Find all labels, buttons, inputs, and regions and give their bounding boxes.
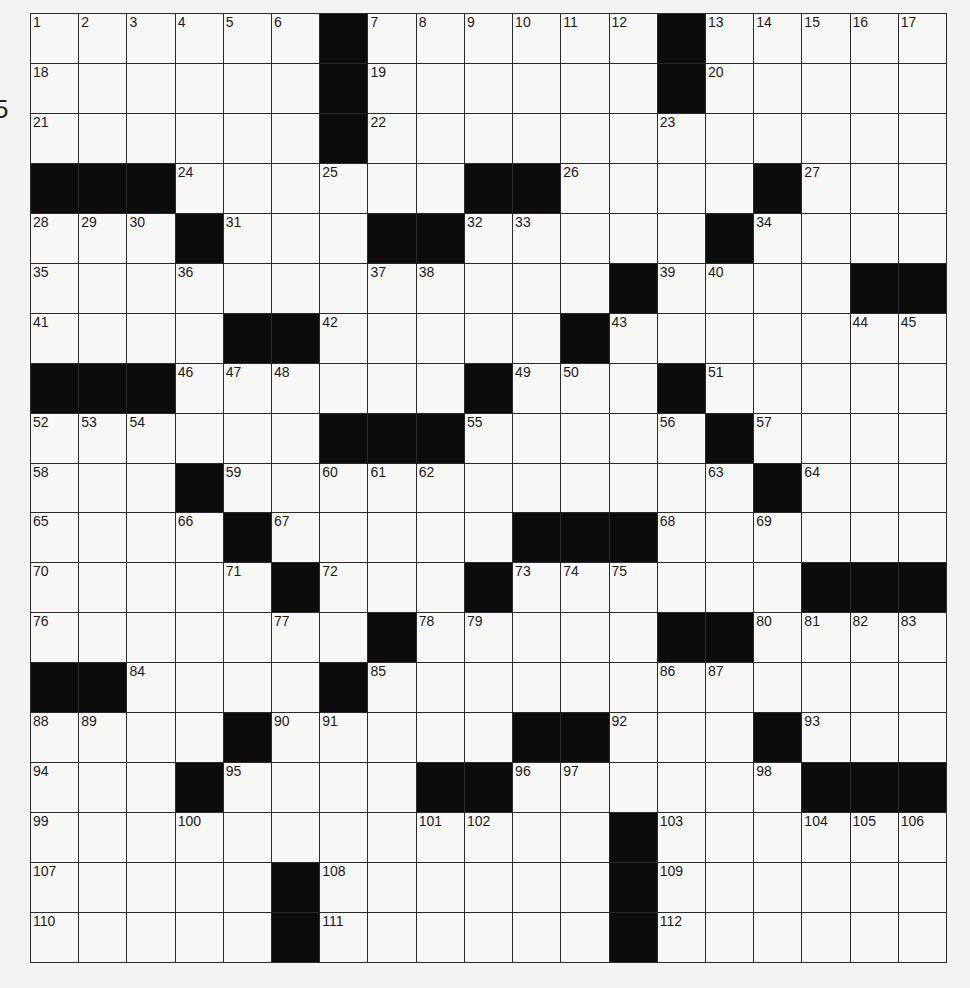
grid-cell[interactable]: 47 [224, 364, 271, 413]
grid-cell[interactable] [224, 164, 271, 213]
grid-cell[interactable] [465, 663, 512, 712]
grid-cell[interactable] [706, 813, 753, 862]
grid-cell[interactable] [127, 813, 174, 862]
grid-cell[interactable] [465, 64, 512, 113]
grid-cell[interactable] [79, 314, 126, 363]
grid-cell[interactable] [851, 513, 898, 562]
grid-cell[interactable] [561, 613, 608, 662]
grid-cell[interactable]: 108 [320, 863, 367, 912]
grid-cell[interactable] [417, 663, 464, 712]
grid-cell[interactable]: 98 [754, 763, 801, 812]
grid-cell[interactable] [417, 513, 464, 562]
grid-cell[interactable] [754, 114, 801, 163]
grid-cell[interactable] [802, 64, 849, 113]
grid-cell[interactable]: 2 [79, 14, 126, 63]
grid-cell[interactable] [127, 264, 174, 313]
grid-cell[interactable] [610, 464, 657, 513]
grid-cell[interactable] [513, 913, 560, 962]
grid-cell[interactable] [368, 913, 415, 962]
grid-cell[interactable] [272, 663, 319, 712]
grid-cell[interactable]: 92 [610, 713, 657, 762]
grid-cell[interactable] [368, 164, 415, 213]
grid-cell[interactable] [368, 513, 415, 562]
grid-cell[interactable]: 41 [31, 314, 78, 363]
grid-cell[interactable]: 40 [706, 264, 753, 313]
grid-cell[interactable] [899, 663, 946, 712]
grid-cell[interactable] [851, 364, 898, 413]
grid-cell[interactable] [224, 114, 271, 163]
grid-cell[interactable] [465, 913, 512, 962]
grid-cell[interactable] [465, 314, 512, 363]
grid-cell[interactable] [610, 663, 657, 712]
grid-cell[interactable]: 14 [754, 14, 801, 63]
grid-cell[interactable]: 22 [368, 114, 415, 163]
grid-cell[interactable] [224, 663, 271, 712]
grid-cell[interactable] [706, 513, 753, 562]
grid-cell[interactable]: 80 [754, 613, 801, 662]
grid-cell[interactable]: 9 [465, 14, 512, 63]
grid-cell[interactable] [465, 863, 512, 912]
grid-cell[interactable] [706, 563, 753, 612]
grid-cell[interactable] [561, 813, 608, 862]
grid-cell[interactable]: 45 [899, 314, 946, 363]
grid-cell[interactable] [127, 114, 174, 163]
grid-cell[interactable] [561, 464, 608, 513]
grid-cell[interactable] [658, 713, 705, 762]
grid-cell[interactable]: 86 [658, 663, 705, 712]
grid-cell[interactable] [176, 863, 223, 912]
grid-cell[interactable] [610, 763, 657, 812]
grid-cell[interactable]: 99 [31, 813, 78, 862]
grid-cell[interactable] [272, 64, 319, 113]
grid-cell[interactable] [417, 114, 464, 163]
grid-cell[interactable] [754, 563, 801, 612]
grid-cell[interactable] [127, 513, 174, 562]
grid-cell[interactable]: 52 [31, 414, 78, 463]
grid-cell[interactable] [368, 364, 415, 413]
grid-cell[interactable] [320, 813, 367, 862]
grid-cell[interactable] [320, 613, 367, 662]
grid-cell[interactable] [368, 314, 415, 363]
grid-cell[interactable] [272, 214, 319, 263]
grid-cell[interactable] [513, 813, 560, 862]
grid-cell[interactable] [465, 513, 512, 562]
grid-cell[interactable]: 88 [31, 713, 78, 762]
grid-cell[interactable]: 112 [658, 913, 705, 962]
grid-cell[interactable] [658, 464, 705, 513]
grid-cell[interactable] [513, 314, 560, 363]
grid-cell[interactable]: 103 [658, 813, 705, 862]
grid-cell[interactable]: 51 [706, 364, 753, 413]
grid-cell[interactable] [851, 114, 898, 163]
grid-cell[interactable]: 39 [658, 264, 705, 313]
grid-cell[interactable]: 61 [368, 464, 415, 513]
grid-cell[interactable] [320, 364, 367, 413]
grid-cell[interactable] [79, 613, 126, 662]
grid-cell[interactable] [417, 364, 464, 413]
grid-cell[interactable] [79, 863, 126, 912]
grid-cell[interactable] [224, 264, 271, 313]
grid-cell[interactable]: 37 [368, 264, 415, 313]
grid-cell[interactable] [224, 813, 271, 862]
grid-cell[interactable] [658, 164, 705, 213]
grid-cell[interactable]: 36 [176, 264, 223, 313]
grid-cell[interactable] [465, 713, 512, 762]
grid-cell[interactable]: 6 [272, 14, 319, 63]
grid-cell[interactable] [513, 863, 560, 912]
grid-cell[interactable]: 59 [224, 464, 271, 513]
grid-cell[interactable] [79, 114, 126, 163]
grid-cell[interactable] [79, 563, 126, 612]
grid-cell[interactable]: 44 [851, 314, 898, 363]
grid-cell[interactable] [610, 364, 657, 413]
grid-cell[interactable] [802, 513, 849, 562]
grid-cell[interactable] [754, 64, 801, 113]
grid-cell[interactable] [802, 364, 849, 413]
grid-cell[interactable] [802, 913, 849, 962]
grid-cell[interactable]: 87 [706, 663, 753, 712]
grid-cell[interactable]: 57 [754, 414, 801, 463]
grid-cell[interactable] [706, 164, 753, 213]
grid-cell[interactable] [79, 913, 126, 962]
grid-cell[interactable] [706, 713, 753, 762]
grid-cell[interactable] [224, 414, 271, 463]
grid-cell[interactable]: 53 [79, 414, 126, 463]
grid-cell[interactable] [754, 264, 801, 313]
grid-cell[interactable] [176, 563, 223, 612]
